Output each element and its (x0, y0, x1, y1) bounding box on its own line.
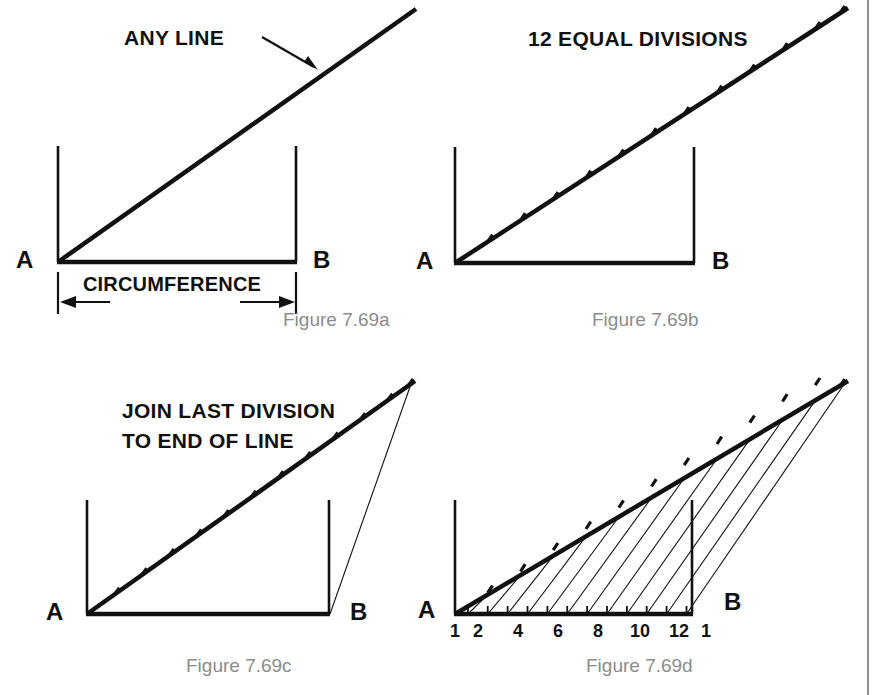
scale-number-12: 12 (669, 621, 689, 641)
join-note-line-1: JOIN LAST DIVISION (122, 399, 335, 422)
scale-number-2: 2 (473, 621, 483, 641)
vertex-label-a: A (416, 247, 433, 274)
vertex-label-a: A (418, 596, 435, 623)
scale-number-8: 8 (593, 621, 603, 641)
vertex-label-b: B (313, 246, 330, 273)
circumference-label: CIRCUMFERENCE (83, 273, 261, 295)
figure-sheet: A B ANY LINE CIRCUMFERENCE Fig (0, 0, 879, 695)
caption-figure-b: Figure 7.69b (592, 309, 699, 330)
vertex-label-a: A (46, 598, 63, 625)
caption-figure-c: Figure 7.69c (186, 655, 292, 676)
any-line-note: ANY LINE (124, 26, 224, 49)
vertex-label-b: B (724, 588, 741, 615)
scale-number-4: 4 (513, 621, 523, 641)
page-background (0, 0, 879, 695)
vertex-label-a: A (16, 246, 33, 273)
join-note-line-2: TO END OF LINE (122, 429, 294, 452)
caption-figure-d: Figure 7.69d (586, 655, 693, 676)
twelve-equal-divisions-note: 12 EQUAL DIVISIONS (528, 27, 748, 50)
scale-number-6: 6 (553, 621, 563, 641)
vertex-label-b: B (350, 598, 367, 625)
scale-number-wrap-1: 1 (701, 621, 711, 641)
figure-canvas: A B ANY LINE CIRCUMFERENCE Fig (0, 0, 879, 695)
scale-number-1: 1 (450, 621, 460, 641)
vertex-label-b: B (712, 247, 729, 274)
scale-number-10: 10 (630, 621, 650, 641)
caption-figure-a: Figure 7.69a (283, 309, 390, 330)
